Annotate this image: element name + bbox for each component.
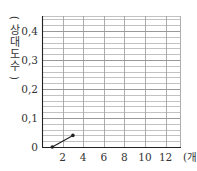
y-tick-label: 0,2 [21,83,38,95]
y-label-char: ( [8,16,21,20]
x-tick-label: 8 [121,151,128,163]
x-tick-labels: 24681012 [59,151,172,163]
y-tick-label: 0 [31,141,38,153]
chart: 00,10,20,30,4 24681012 (상대도수) (개) [0,0,197,171]
y-tick-label: 0,4 [21,25,38,37]
x-tick-label: 12 [159,151,172,163]
x-tick-label: 4 [80,151,87,163]
x-tick-label: 10 [138,151,151,163]
data-point [51,145,55,149]
y-tick-label: 0,1 [21,112,38,124]
y-label-char: 수 [10,60,20,73]
y-axis-label: (상대도수) [8,16,21,80]
y-tick-labels: 00,10,20,30,4 [21,25,38,153]
x-tick-label: 2 [59,151,66,163]
y-tick-label: 0,3 [21,54,38,66]
axes [42,16,181,148]
y-label-char: ) [8,76,21,80]
grid [42,16,181,147]
data-point [71,134,75,138]
x-axis-label: (개) [183,151,197,163]
x-tick-label: 6 [100,151,107,163]
